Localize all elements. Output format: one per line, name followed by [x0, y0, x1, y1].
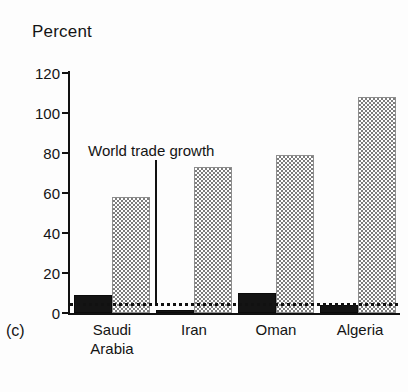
x-category-label-saudi-arabia: Saudi Arabia: [74, 320, 150, 358]
x-category-label-algeria: Algeria: [320, 320, 400, 339]
bar-group-algeria: [320, 73, 396, 313]
bar-grey-saudi-arabia: [112, 197, 150, 313]
bar-dark-algeria: [320, 305, 358, 313]
y-tick-mark: [62, 72, 69, 74]
world-trade-growth-reference-line: [70, 303, 398, 306]
x-category-line-2: Arabia: [74, 339, 150, 358]
x-category-line-1: Oman: [238, 320, 314, 339]
x-category-line-1: Saudi: [74, 320, 150, 339]
world-trade-growth-label: World trade growth: [88, 142, 214, 159]
y-tick-mark: [62, 232, 69, 234]
y-tick-label: 100: [20, 105, 60, 122]
bar-group-iran: [156, 73, 232, 313]
bar-grey-iran: [194, 167, 232, 313]
bar-group-saudi-arabia: [74, 73, 150, 313]
y-tick-mark: [62, 112, 69, 114]
y-tick-mark: [62, 152, 69, 154]
x-category-line-1: Algeria: [320, 320, 400, 339]
y-tick-label: 120: [20, 65, 60, 82]
bar-grey-algeria: [358, 97, 396, 313]
x-category-label-iran: Iran: [156, 320, 232, 339]
bar-grey-oman: [276, 155, 314, 313]
x-category-line-1: Iran: [156, 320, 232, 339]
y-tick-label: 0: [20, 305, 60, 322]
bar-dark-iran: [156, 310, 194, 313]
y-tick-label: 20: [20, 265, 60, 282]
y-tick-label: 80: [20, 145, 60, 162]
y-tick-mark: [62, 272, 69, 274]
bar-group-oman: [238, 73, 314, 313]
y-tick-mark: [62, 192, 69, 194]
x-category-label-oman: Oman: [238, 320, 314, 339]
figure-panel: Percent (c) 120 100 80 60 40 20 0: [0, 0, 408, 392]
plot-area: [70, 73, 400, 313]
y-tick-label: 60: [20, 185, 60, 202]
world-trade-growth-leader-line: [155, 160, 157, 303]
y-tick-label: 40: [20, 225, 60, 242]
y-tick-mark: [62, 312, 69, 314]
